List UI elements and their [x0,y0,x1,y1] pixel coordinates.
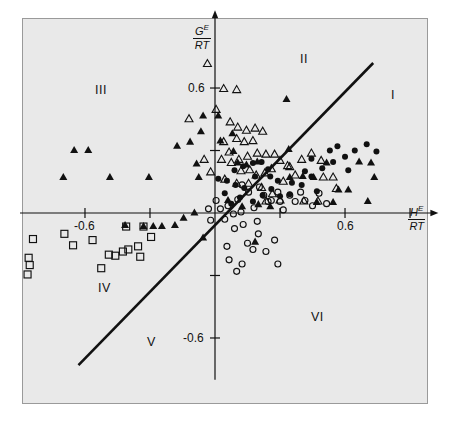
data-point-filled-triangle [171,221,179,228]
data-point-open-circle [272,237,278,243]
data-point-open-square [137,253,144,260]
region-label-v: V [147,336,156,349]
data-point-filled-triangle [84,146,92,153]
data-point-open-circle [232,226,238,232]
data-point-open-circle [239,261,245,267]
data-point-open-triangle [200,155,208,162]
data-point-filled-triangle [197,127,205,134]
data-point-filled-triangle [344,186,352,193]
data-point-filled-circle [334,143,340,149]
data-point-open-triangle [259,127,267,134]
data-point-filled-circle [308,156,314,162]
data-point-filled-circle [319,165,325,171]
data-point-open-circle [222,216,228,222]
data-point-filled-circle [299,182,305,188]
data-point-filled-triangle [329,198,337,205]
data-point-open-triangle [329,173,337,180]
region-label-iii: III [95,84,107,97]
data-point-open-circle [208,217,214,223]
data-point-open-circle [275,261,281,267]
data-point-open-circle [230,211,236,217]
data-point-open-circle [205,206,211,212]
y-tick-label-0-6: 0.6 [188,82,205,94]
data-point-open-triangle [317,156,325,163]
data-point-filled-triangle [106,173,114,180]
data-point-open-triangle [249,137,257,144]
reference-diagonal-line [78,63,373,365]
data-point-open-triangle [242,126,250,133]
data-point-open-circle [213,198,219,204]
data-point-filled-triangle [70,146,78,153]
data-point-open-square [29,236,36,243]
data-point-open-circle [280,207,286,213]
data-point-filled-triangle [251,238,259,245]
data-point-filled-circle [342,154,348,160]
data-point-open-square [148,233,155,240]
data-point-filled-triangle [180,214,188,221]
data-point-filled-triangle [370,173,378,180]
region-label-iv: IV [98,282,111,295]
data-point-filled-circle [364,141,370,147]
data-point-open-circle [298,189,304,195]
y-axis-title-numerator: G [195,25,204,37]
figure-root: GE RT HE RT -0.6 0.6 0.6 -0.6 III II I I… [0,0,450,422]
data-point-filled-triangle [364,197,372,204]
data-point-open-triangle [203,60,211,67]
data-point-open-circle [240,221,246,227]
y-axis-title-superscript: E [204,23,209,32]
y-axis-arrow-icon [212,10,218,18]
data-point-open-triangle [251,124,259,131]
data-point-open-square [135,243,142,250]
data-point-filled-circle [327,148,333,154]
x-axis-title-superscript: E [418,204,423,213]
data-point-open-circle [226,257,232,263]
scatter-plot-canvas [0,0,450,422]
data-point-open-triangle [220,85,228,92]
x-axis-arrow-icon [430,210,438,216]
data-point-filled-circle [330,159,336,165]
data-point-open-triangle [227,158,235,165]
data-point-open-triangle [298,155,306,162]
data-point-filled-triangle [367,158,375,165]
data-point-open-triangle [185,115,193,122]
x-tick-label-neg-0-6: -0.6 [74,220,95,232]
series-open-triangle [185,60,340,205]
data-point-filled-triangle [224,196,232,203]
data-point-filled-triangle [190,208,198,215]
data-point-open-circle [245,240,251,246]
data-point-open-square [24,271,31,278]
x-axis-title: HE RT [408,205,425,233]
data-point-filled-triangle [158,222,166,229]
data-point-open-circle [254,218,260,224]
data-point-filled-circle [373,149,379,155]
data-point-open-square [61,230,68,237]
data-point-open-triangle [212,105,220,112]
data-point-filled-circle [250,199,256,205]
data-point-filled-triangle [59,173,67,180]
data-point-open-square [98,265,105,272]
data-point-filled-triangle [195,173,203,180]
data-point-filled-circle [345,167,351,173]
data-point-filled-circle [215,176,221,182]
data-point-open-triangle [271,150,279,157]
data-point-open-circle [292,199,298,205]
y-tick-label-neg-0-6: -0.6 [183,332,204,344]
data-point-open-square [26,262,33,269]
data-point-open-circle [255,231,261,237]
data-point-filled-triangle [238,202,246,209]
data-point-open-square [89,237,96,244]
data-point-open-triangle [307,149,315,156]
data-point-open-triangle [233,86,241,93]
data-point-filled-triangle [193,159,201,166]
data-point-open-circle [238,209,244,215]
data-point-open-circle [250,246,256,252]
data-point-filled-triangle [199,112,207,119]
data-point-open-square [25,254,32,261]
x-axis-title-denominator: RT [408,220,425,233]
data-point-open-triangle [291,171,299,178]
data-point-open-square [70,242,77,249]
data-point-open-circle [217,206,223,212]
data-point-filled-triangle [283,95,291,102]
data-point-open-triangle [234,123,242,130]
y-axis-title-denominator: RT [193,39,211,52]
